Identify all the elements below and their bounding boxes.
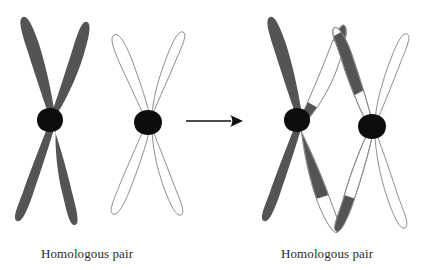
left-light-chromosome <box>111 32 185 215</box>
centromere-right-dark <box>284 108 310 132</box>
caption-right-panel: Homologous pair <box>281 246 373 262</box>
crossing-over-figure <box>0 0 426 270</box>
centromere-right-light <box>358 114 386 139</box>
centromere-left-dark <box>37 108 63 132</box>
right-light-chromosome <box>308 28 409 252</box>
left-dark-chromosome <box>15 17 90 225</box>
transition-arrow <box>186 115 243 127</box>
centromere-left-light <box>134 110 162 135</box>
figure-canvas: Homologous pair Homologous pair <box>0 0 426 270</box>
caption-left-panel: Homologous pair <box>41 246 133 262</box>
